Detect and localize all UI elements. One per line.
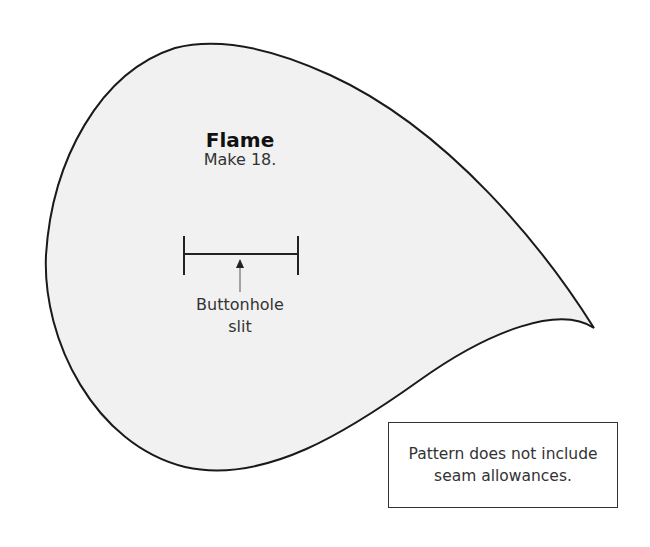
note-line1: Pattern does not include bbox=[408, 443, 597, 465]
buttonhole-label-line1: Buttonhole bbox=[196, 294, 284, 316]
seam-allowance-note: Pattern does not include seam allowances… bbox=[388, 422, 618, 508]
pattern-title: Flame bbox=[206, 128, 274, 152]
pattern-instruction: Make 18. bbox=[204, 150, 277, 169]
flame-pattern-outline bbox=[46, 44, 594, 471]
buttonhole-label-line2: slit bbox=[196, 316, 284, 338]
note-line2: seam allowances. bbox=[408, 465, 597, 487]
buttonhole-label: Buttonhole slit bbox=[196, 294, 284, 338]
